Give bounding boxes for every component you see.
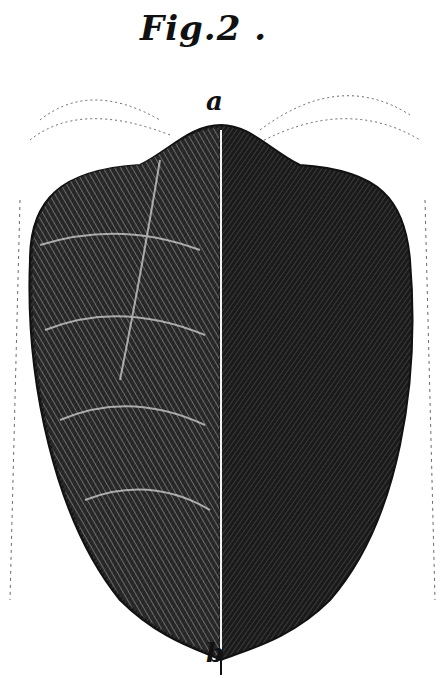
leaf-left-half	[32, 128, 221, 656]
label-a: a	[206, 86, 223, 116]
label-b: b	[206, 638, 224, 668]
